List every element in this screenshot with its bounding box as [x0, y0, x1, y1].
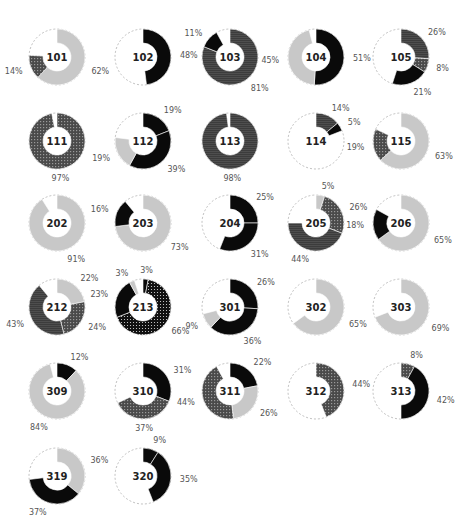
donut-chart-grid: 62%14%10148%10281%11%10351%45%10426%8%21…: [0, 0, 459, 523]
donut-chart-313: 8%42%313: [373, 351, 455, 419]
segment-label: 3%: [140, 266, 153, 275]
chart-id-label: 311: [220, 386, 241, 397]
segment-label: 12%: [71, 353, 89, 362]
segment-label: 36%: [244, 337, 262, 346]
segment-label: 5%: [322, 182, 335, 191]
donut-chart-101: 62%14%101: [5, 29, 110, 85]
chart-id-label: 112: [133, 136, 154, 147]
segment-label: 25%: [256, 193, 274, 202]
segment-label: 14%: [332, 104, 350, 113]
donut-chart-312: 44%312: [288, 363, 371, 419]
donut-segment: [118, 396, 169, 419]
donut-chart-203: 73%16%203: [91, 195, 189, 252]
segment-label: 8%: [436, 64, 449, 73]
segment-label: 16%: [91, 205, 109, 214]
chart-id-label: 206: [391, 218, 412, 229]
donut-chart-309: 12%84%309: [29, 353, 89, 432]
chart-id-label: 102: [133, 52, 154, 63]
chart-id-label: 111: [47, 136, 68, 147]
segment-label: 18%: [346, 221, 364, 230]
segment-label: 26%: [428, 28, 446, 37]
donut-chart-301: 26%36%9%301: [185, 278, 275, 347]
segment-label: 26%: [257, 278, 275, 287]
chart-id-label: 104: [306, 52, 327, 63]
segment-label: 42%: [437, 396, 455, 405]
segment-label: 22%: [254, 358, 272, 367]
donut-chart-204: 25%31%204: [202, 193, 274, 259]
chart-id-label: 113: [220, 136, 241, 147]
chart-id-label: 303: [391, 302, 412, 313]
donut-chart-113: 98%113: [202, 113, 258, 183]
segment-label: 21%: [414, 88, 432, 97]
segment-label: 44%: [352, 380, 370, 389]
chart-id-label: 204: [220, 218, 241, 229]
segment-label: 11%: [184, 29, 202, 38]
segment-label: 69%: [432, 324, 450, 333]
donut-segment: [115, 201, 134, 226]
chart-id-label: 115: [391, 136, 412, 147]
chart-id-label: 205: [306, 218, 327, 229]
donut-chart-114: 14%5%114: [288, 104, 361, 169]
donut-chart-302: 65%302: [288, 279, 367, 335]
chart-id-label: 320: [133, 471, 154, 482]
segment-label: 26%: [260, 409, 278, 418]
donut-chart-212: 22%24%43%212: [6, 274, 106, 335]
segment-label: 9%: [185, 322, 198, 331]
chart-id-label: 302: [306, 302, 327, 313]
segment-label: 97%: [52, 174, 70, 183]
segment-label: 51%: [353, 54, 371, 63]
segment-label: 73%: [171, 243, 189, 252]
segment-label: 37%: [29, 508, 47, 517]
chart-id-label: 319: [47, 471, 68, 482]
segment-label: 44%: [291, 255, 309, 264]
segment-label: 8%: [410, 351, 423, 360]
segment-label: 36%: [90, 456, 108, 465]
segment-label: 84%: [30, 423, 48, 432]
segment-label: 37%: [135, 424, 153, 433]
segment-label: 19%: [92, 154, 110, 163]
segment-label: 31%: [174, 366, 192, 375]
segment-label: 65%: [349, 320, 367, 329]
segment-label: 31%: [251, 250, 269, 259]
segment-label: 5%: [348, 118, 361, 127]
segment-label: 91%: [67, 255, 85, 264]
chart-id-label: 103: [220, 52, 241, 63]
segment-label: 19%: [347, 143, 365, 152]
donut-chart-105: 26%8%21%105: [373, 28, 449, 97]
chart-id-label: 212: [47, 302, 68, 313]
chart-id-label: 213: [133, 302, 154, 313]
segment-label: 23%: [90, 290, 108, 299]
segment-label: 22%: [81, 274, 99, 283]
chart-id-label: 203: [133, 218, 154, 229]
segment-label: 24%: [88, 323, 106, 332]
segment-label: 62%: [91, 67, 109, 76]
segment-label: 39%: [167, 165, 185, 174]
donut-chart-202: 91%202: [29, 195, 86, 264]
chart-id-label: 312: [306, 386, 327, 397]
segment-label: 63%: [435, 152, 453, 161]
donut-chart-103: 81%11%103: [184, 29, 269, 93]
segment-label: 9%: [153, 436, 166, 445]
donut-chart-111: 97%111: [29, 113, 85, 183]
chart-id-label: 101: [47, 52, 68, 63]
segment-label: 19%: [164, 106, 182, 115]
chart-id-label: 114: [306, 136, 327, 147]
segment-label: 81%: [251, 84, 269, 93]
donut-chart-320: 9%35%320: [115, 436, 198, 504]
segment-label: 26%: [349, 203, 367, 212]
segment-label: 44%: [177, 398, 195, 407]
segment-label: 98%: [223, 174, 241, 183]
chart-id-label: 105: [391, 52, 412, 63]
charts-layer: 62%14%10148%10281%11%10351%45%10426%8%21…: [5, 28, 455, 517]
segment-label: 14%: [5, 67, 23, 76]
segment-label: 65%: [434, 236, 452, 245]
segment-label: 43%: [6, 320, 24, 329]
segment-label: 3%: [116, 269, 129, 278]
segment-label: 45%: [261, 56, 279, 65]
chart-id-label: 310: [133, 386, 154, 397]
donut-chart-319: 36%37%319: [29, 448, 109, 517]
chart-id-label: 202: [47, 218, 68, 229]
donut-chart-112: 19%39%19%112: [92, 106, 185, 173]
donut-chart-303: 69%303: [373, 279, 450, 335]
chart-id-label: 313: [391, 386, 412, 397]
